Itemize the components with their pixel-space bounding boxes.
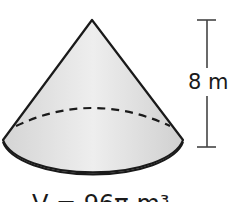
cone-figure (0, 0, 232, 202)
volume-label: V = 96π m³ (32, 190, 169, 202)
height-label: 8 m (188, 68, 229, 96)
cone-body (3, 20, 183, 172)
